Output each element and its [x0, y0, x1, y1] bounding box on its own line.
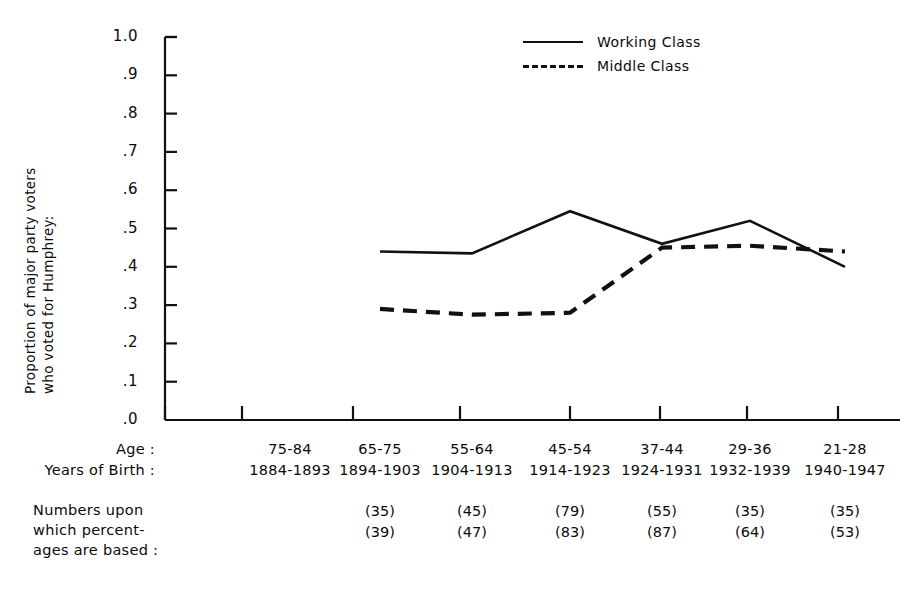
- x-axis-cell: 1884-1893: [249, 462, 331, 478]
- series-line-middle-class: [380, 246, 845, 315]
- x-axis-cell: 37-44: [640, 441, 684, 457]
- x-axis-cell: 29-36: [728, 441, 772, 457]
- x-axis-row-title-age: Age :: [0, 441, 155, 457]
- x-axis-cell: 75-84: [268, 441, 312, 457]
- note-line-2: which percent-: [33, 520, 158, 540]
- x-axis-cell: 55-64: [450, 441, 494, 457]
- x-axis-row-title-years: Years of Birth :: [0, 462, 155, 478]
- x-axis-cell: 1914-1923: [529, 462, 611, 478]
- x-axis-cell: 65-75: [358, 441, 402, 457]
- note-line-1: Numbers upon: [33, 500, 158, 520]
- sample-size-cell: (55): [647, 503, 677, 519]
- x-axis-cell: 1932-1939: [709, 462, 791, 478]
- x-axis-cell: 1904-1913: [431, 462, 513, 478]
- sample-size-cell: (35): [830, 503, 860, 519]
- sample-size-cell: (64): [735, 524, 765, 540]
- x-axis-cell: 1940-1947: [804, 462, 886, 478]
- note-line-3: ages are based :: [33, 540, 158, 560]
- chart-figure: Proportion of major party voters who vot…: [0, 0, 916, 589]
- sample-size-cell: (83): [555, 524, 585, 540]
- x-axis-cell: 21-28: [823, 441, 867, 457]
- sample-size-cell: (87): [647, 524, 677, 540]
- x-axis-cell: 45-54: [548, 441, 592, 457]
- series-line-working-class: [380, 211, 845, 267]
- sample-size-cell: (47): [457, 524, 487, 540]
- sample-size-cell: (53): [830, 524, 860, 540]
- sample-size-cell: (35): [735, 503, 765, 519]
- sample-size-cell: (39): [365, 524, 395, 540]
- sample-size-cell: (35): [365, 503, 395, 519]
- x-axis-cell: 1924-1931: [621, 462, 703, 478]
- sample-size-note: Numbers upon which percent- ages are bas…: [33, 500, 158, 560]
- sample-size-cell: (79): [555, 503, 585, 519]
- sample-size-cell: (45): [457, 503, 487, 519]
- x-axis-cell: 1894-1903: [339, 462, 421, 478]
